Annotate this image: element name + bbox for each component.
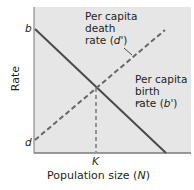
birth-annotation-line1: Per capita (135, 73, 187, 85)
death-rate-suffix: ) (123, 34, 127, 46)
death-annotation-line3: rate (d') (85, 34, 137, 46)
birth-var: b' (164, 97, 174, 109)
birth-annotation-line3: rate (b') (135, 97, 187, 109)
death-rate-annotation: Per capita death rate (d') (85, 10, 137, 46)
k-tick-label: K (92, 155, 99, 167)
y-axis-label: Rate (9, 62, 22, 96)
birth-annotation-line2: birth (135, 85, 187, 97)
d-tick-label: d (25, 136, 32, 148)
death-rate-prefix: rate ( (85, 34, 114, 46)
death-annotation-line1: Per capita (85, 10, 137, 22)
death-var: d' (114, 34, 124, 46)
birth-rate-suffix: ) (173, 97, 177, 109)
birth-rate-prefix: rate ( (135, 97, 164, 109)
x-axis-label-suffix: ) (146, 169, 150, 182)
death-annotation-line2: death (85, 22, 137, 34)
x-axis-label: Population size (N) (47, 170, 150, 182)
x-axis-var: N (137, 169, 145, 182)
birth-rate-annotation: Per capita birth rate (b') (135, 73, 187, 109)
b-tick-label: b (25, 22, 32, 34)
x-axis-label-prefix: Population size ( (47, 169, 137, 182)
death-leader-line (124, 48, 132, 55)
